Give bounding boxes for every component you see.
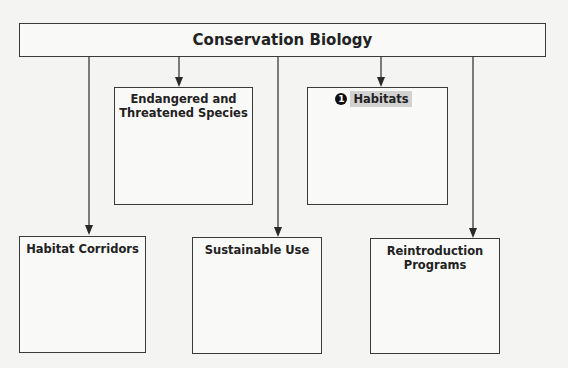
number-badge-icon: 1 — [335, 93, 347, 105]
node-reintroduction-label-line2: Programs — [371, 258, 499, 272]
arrow-to-sustainable — [274, 227, 282, 237]
node-endangered-label-line2: Threatened Species — [115, 106, 252, 120]
node-sustainable-use: Sustainable Use — [192, 237, 322, 354]
node-endangered-species: Endangered and Threatened Species — [114, 87, 253, 205]
arrow-to-habitats — [377, 77, 385, 87]
node-reintroduction-label-line1: Reintroduction — [371, 244, 499, 258]
node-corridors-label: Habitat Corridors — [20, 242, 145, 256]
arrow-to-corridors — [85, 225, 93, 235]
node-habitats-title: 1Habitats — [300, 91, 447, 107]
node-endangered-label-line1: Endangered and — [115, 92, 252, 106]
node-habitats-label-highlighted: Habitats — [350, 91, 411, 107]
arrow-to-endangered — [175, 77, 183, 87]
node-reintroduction-programs: Reintroduction Programs — [370, 238, 500, 354]
root-node-conservation-biology: Conservation Biology — [19, 23, 546, 57]
node-habitat-corridors: Habitat Corridors — [19, 236, 146, 353]
node-habitats: 1Habitats — [307, 87, 448, 205]
node-sustainable-label: Sustainable Use — [193, 243, 321, 257]
root-node-label: Conservation Biology — [20, 31, 545, 49]
arrow-to-reintroduction — [469, 228, 477, 238]
